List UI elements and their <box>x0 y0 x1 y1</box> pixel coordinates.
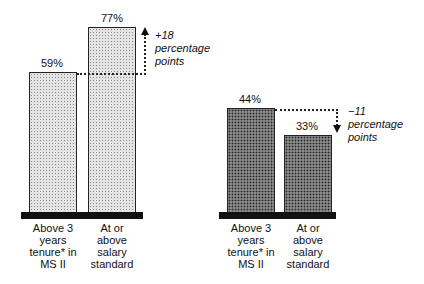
arrow-up-icon <box>141 27 149 35</box>
bar-salary <box>284 135 332 213</box>
category-label: At or above salary standard <box>273 222 343 270</box>
value-label: 77% <box>87 12 137 24</box>
arrow-down-icon <box>333 125 341 133</box>
value-label: 59% <box>27 57 77 69</box>
bar-tenure <box>29 72 77 213</box>
baseline <box>21 212 143 219</box>
value-label: 33% <box>282 120 332 132</box>
bar-tenure <box>227 108 275 213</box>
value-label: 44% <box>225 93 275 105</box>
change-arrow-shaft <box>144 34 146 75</box>
category-label: At or above salary standard <box>77 222 147 270</box>
change-annotation: +18 percentage points <box>155 29 210 68</box>
reference-line <box>275 109 338 111</box>
change-annotation: −11 percentage points <box>348 105 403 144</box>
reference-line <box>77 73 146 75</box>
bar-salary <box>88 27 136 213</box>
change-arrow-shaft <box>336 109 338 126</box>
baseline <box>219 212 336 219</box>
